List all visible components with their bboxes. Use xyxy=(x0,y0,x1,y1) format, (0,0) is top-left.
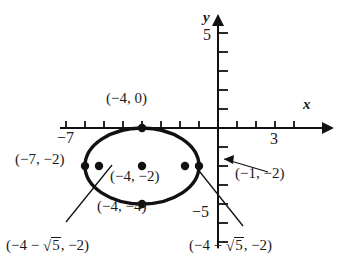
label-right-vertex: (−1, −2) xyxy=(235,166,284,181)
radicand-left: 5 xyxy=(51,237,61,253)
label-left-focus-prefix: (−4 − xyxy=(6,237,43,253)
point-right-focus xyxy=(181,162,189,170)
x-axis-arrowhead xyxy=(322,122,334,134)
label-right-focus-suffix: , −2) xyxy=(244,237,272,253)
radicand-right: 5 xyxy=(234,237,244,253)
point-right-vertex xyxy=(195,162,203,170)
label-right-focus: (−4 + √5, −2) xyxy=(189,237,272,253)
x-tick-label-neg7: −7 xyxy=(57,130,74,146)
point-left-vertex xyxy=(81,162,89,170)
label-center: (−4, −2) xyxy=(110,169,159,184)
y-axis-ticks xyxy=(218,33,228,242)
x-axis-ticks xyxy=(66,121,294,128)
point-top-vertex xyxy=(138,124,146,132)
y-tick-label-neg5: −5 xyxy=(192,204,209,220)
label-bottom-vertex: (−4, −4) xyxy=(97,199,146,214)
leader-right-vertex-arrowhead xyxy=(224,155,234,164)
label-top-vertex: (−4, 0) xyxy=(106,91,147,106)
label-left-focus-suffix: , −2) xyxy=(61,237,89,253)
x-axis-name: x xyxy=(303,97,311,112)
radical-symbol-left: √ xyxy=(43,239,51,254)
y-tick-label-5: 5 xyxy=(203,27,211,43)
label-left-vertex: (−7, −2) xyxy=(15,152,64,167)
y-axis-name: y xyxy=(203,10,210,25)
label-right-focus-prefix: (−4 + xyxy=(189,237,226,253)
graph-canvas xyxy=(0,0,337,267)
label-left-focus: (−4 − √5, −2) xyxy=(6,237,89,253)
x-tick-label-3: 3 xyxy=(270,131,278,147)
y-axis-arrowhead xyxy=(212,14,224,26)
point-left-focus xyxy=(95,162,103,170)
radical-symbol-right: √ xyxy=(226,239,234,254)
